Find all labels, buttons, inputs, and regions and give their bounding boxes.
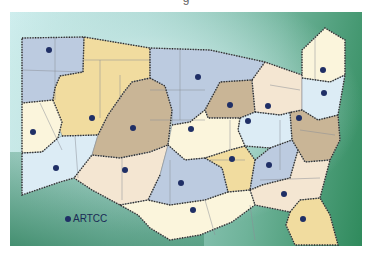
artcc-center-dot — [188, 126, 194, 132]
artcc-center-dot — [130, 125, 136, 131]
artcc-center-dot — [296, 115, 302, 121]
artcc-marker-icon — [65, 216, 71, 222]
artcc-center-dot — [266, 162, 272, 168]
artcc-center-dot — [320, 67, 326, 73]
artcc-center-dot — [190, 207, 196, 213]
artcc-center-dot — [122, 167, 128, 173]
artcc-center-dot — [300, 216, 306, 222]
artcc-center-dot — [178, 180, 184, 186]
artcc-center-dot — [30, 129, 36, 135]
artcc-center-dot — [89, 115, 95, 121]
artcc-center-dot — [53, 165, 59, 171]
artcc-center-dot — [245, 118, 251, 124]
legend-label: ARTCC — [73, 213, 107, 224]
region-indianapolis — [238, 112, 292, 148]
artcc-center-dot — [46, 47, 52, 53]
legend: ARTCC — [65, 213, 107, 224]
artcc-center-dot — [281, 191, 287, 197]
artcc-map — [0, 0, 373, 261]
artcc-center-dot — [229, 156, 235, 162]
region-cleveland — [252, 62, 302, 115]
artcc-center-dot — [195, 74, 201, 80]
artcc-center-dot — [265, 103, 271, 109]
artcc-center-dot — [227, 102, 233, 108]
artcc-center-dot — [321, 90, 327, 96]
